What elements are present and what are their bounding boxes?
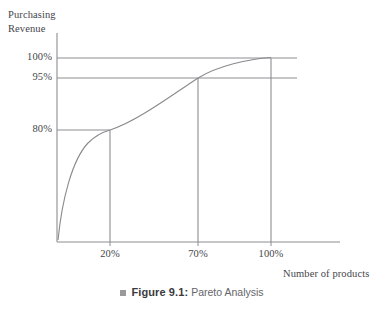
- y-tick-label-95: 95%: [8, 71, 52, 84]
- figure-caption: Figure 9.1:Pareto Analysis: [0, 286, 384, 298]
- y-axis-title-line1: Purchasing: [8, 8, 56, 22]
- x-tick-label-70: 70%: [178, 248, 218, 261]
- pareto-curve: [58, 58, 271, 241]
- y-tick-label-80: 80%: [8, 123, 52, 136]
- pareto-analysis-figure: Purchasing Revenue 100% 95% 80% 20% 70% …: [0, 0, 384, 309]
- x-tick-label-100: 100%: [251, 248, 291, 261]
- y-axis-title: Purchasing Revenue: [8, 8, 56, 35]
- y-tick-label-100: 100%: [8, 51, 52, 64]
- y-axis-title-line2: Revenue: [8, 22, 56, 36]
- x-tick-label-20: 20%: [90, 248, 130, 261]
- pareto-chart-plot: [0, 0, 384, 309]
- square-bullet-icon: [120, 290, 126, 296]
- figure-caption-label: Figure 9.1:: [131, 286, 188, 298]
- x-axis-title: Number of products: [283, 268, 369, 281]
- figure-caption-text: Pareto Analysis: [191, 286, 263, 298]
